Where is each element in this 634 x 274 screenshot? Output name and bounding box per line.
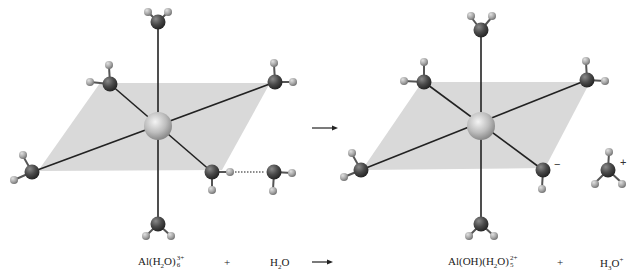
hydrolysis-diagram — [0, 0, 634, 274]
formula-part: H — [270, 256, 278, 268]
formula-part: H — [600, 257, 608, 269]
product-hydroxo-complex: Al(OH)(H2O)2+5 — [448, 255, 517, 270]
water-ligand-lower-left — [340, 149, 369, 181]
water-ligand-upper-right — [268, 59, 298, 90]
right-complex — [340, 12, 626, 240]
free-water-molecule — [267, 165, 297, 196]
aluminum-atom — [467, 112, 495, 140]
hydroxide-charge: − — [554, 158, 560, 170]
formula-superscript: + — [619, 256, 623, 264]
water-ligand-top — [144, 8, 172, 30]
formula-subscript: 5 — [510, 262, 517, 269]
hydronium-ion — [591, 148, 626, 188]
plus-sign: + — [557, 256, 563, 268]
reaction-arrow-equation — [312, 260, 333, 265]
formula-part: O) — [164, 255, 176, 267]
formula-part: Al(H — [138, 255, 161, 267]
water-ligand-top — [467, 12, 496, 38]
hydroxide-ligand — [536, 163, 551, 194]
hydronium-charge: + — [620, 156, 626, 168]
left-complex — [10, 8, 297, 240]
product-hydronium: H3O+ — [600, 256, 623, 272]
formula-stack: 3+6 — [177, 255, 184, 269]
reaction-arrow-diagram — [312, 126, 338, 131]
plus-sign: + — [224, 256, 230, 268]
water-ligand-upper-right — [580, 57, 610, 88]
water-ligand-upper-left — [400, 58, 432, 90]
water-ligand-bottom — [142, 217, 175, 241]
reactant-water: H2O — [270, 256, 289, 271]
water-ligand-lower-left — [10, 151, 40, 184]
aluminum-atom — [144, 112, 172, 140]
water-ligand-bottom — [465, 217, 498, 241]
formula-part: Al(OH)(H — [448, 255, 494, 267]
formula-stack: 2+5 — [510, 255, 517, 269]
reactant-hexaaquaaluminum: Al(H2O)3+6 — [138, 255, 184, 270]
formula-part: O) — [497, 255, 509, 267]
formula-part: O — [281, 256, 289, 268]
formula-subscript: 6 — [177, 262, 184, 269]
